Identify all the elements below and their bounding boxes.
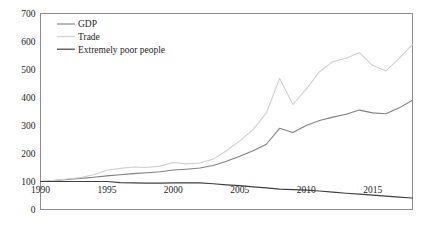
chart-figure: 0100200300400500600700 19901995200020052… bbox=[0, 0, 431, 228]
y-tick-label-300: 300 bbox=[21, 121, 36, 131]
x-tick-label-1995: 1995 bbox=[97, 185, 116, 195]
legend-label-gdp: GDP bbox=[78, 19, 97, 29]
y-tick-label-700: 700 bbox=[21, 9, 36, 19]
y-tick-label-400: 400 bbox=[21, 93, 36, 103]
y-tick-label-0: 0 bbox=[31, 205, 36, 215]
line-chart: 0100200300400500600700 19901995200020052… bbox=[0, 0, 431, 228]
y-tick-label-600: 600 bbox=[21, 37, 36, 47]
x-tick-label-2000: 2000 bbox=[164, 185, 183, 195]
y-tick-label-200: 200 bbox=[21, 149, 36, 159]
legend-label-trade: Trade bbox=[78, 32, 100, 42]
y-tick-label-500: 500 bbox=[21, 65, 36, 75]
x-tick-label-2015: 2015 bbox=[363, 185, 382, 195]
x-tick-label-1990: 1990 bbox=[31, 185, 50, 195]
legend-label-extremely-poor-people: Extremely poor people bbox=[78, 45, 165, 55]
